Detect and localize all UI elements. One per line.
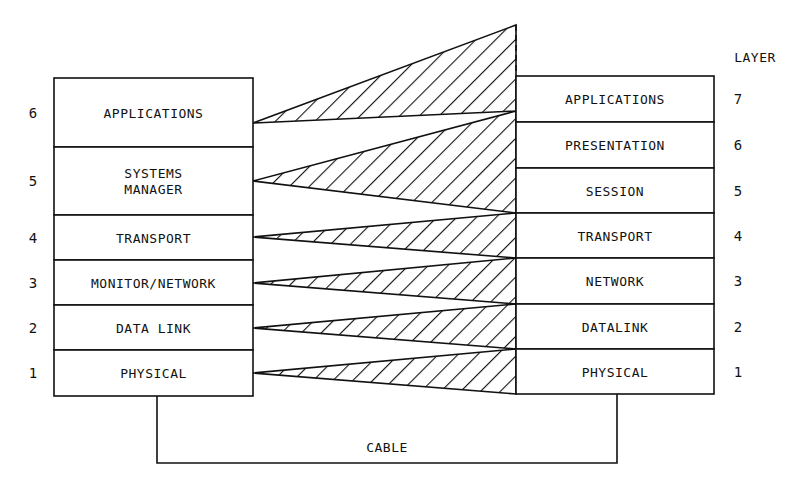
osi-layer-row: NETWORK3	[516, 258, 742, 304]
left-layer-label: DATA LINK	[116, 321, 191, 336]
left-layer-label: PHYSICAL	[120, 366, 187, 381]
osi-layer-label: PRESENTATION	[565, 138, 665, 153]
osi-layer-label: NETWORK	[586, 274, 644, 289]
mapping-wedge	[253, 258, 516, 304]
left-layer-number: 4	[29, 230, 37, 246]
left-layer-number: 1	[29, 365, 37, 381]
left-layer-label: MONITOR/NETWORK	[91, 276, 216, 291]
osi-layer-number: 6	[734, 137, 742, 153]
left-layer-label: SYSTEMS	[124, 166, 182, 181]
osi-layer-number: 1	[734, 364, 742, 380]
cable-label: CABLE	[366, 440, 408, 455]
osi-layer-number: 5	[734, 183, 742, 199]
left-layer-number: 5	[29, 173, 37, 189]
left-layer-number: 6	[29, 105, 37, 121]
left-layer-number: 2	[29, 320, 37, 336]
left-layer-box	[54, 147, 253, 215]
osi-layer-number: 2	[734, 319, 742, 335]
mapping-wedge	[253, 304, 516, 349]
left-layer-row: PHYSICAL1	[29, 350, 253, 396]
mapping-wedge	[253, 213, 516, 258]
left-layer-number: 3	[29, 275, 37, 291]
left-layer-row: TRANSPORT4	[29, 215, 253, 260]
osi-layer-number: 3	[734, 273, 742, 289]
layer-column-header: LAYER	[734, 50, 776, 65]
left-layer-row: SYSTEMSMANAGER5	[29, 147, 253, 215]
osi-layer-row: PRESENTATION6	[516, 122, 742, 168]
osi-layer-number: 4	[734, 228, 742, 244]
left-layer-label: TRANSPORT	[116, 231, 191, 246]
osi-layer-row: TRANSPORT4	[516, 213, 742, 258]
osi-layer-label: PHYSICAL	[582, 365, 649, 380]
left-layer-row: DATA LINK2	[29, 305, 253, 350]
protocol-layer-diagram: APPLICATIONS6SYSTEMSMANAGER5TRANSPORT4MO…	[0, 0, 799, 490]
osi-reference-stack: APPLICATIONS7PRESENTATION6SESSION5TRANSP…	[516, 76, 742, 394]
mapping-wedge	[253, 25, 516, 123]
left-layer-label: APPLICATIONS	[104, 106, 204, 121]
osi-layer-row: PHYSICAL1	[516, 349, 742, 394]
osi-layer-row: DATALINK2	[516, 304, 742, 349]
osi-layer-label: DATALINK	[582, 320, 649, 335]
left-layer-row: MONITOR/NETWORK3	[29, 260, 253, 305]
mapping-wedge	[253, 349, 516, 394]
layer-mapping-wedges	[253, 25, 516, 394]
left-protocol-stack: APPLICATIONS6SYSTEMSMANAGER5TRANSPORT4MO…	[29, 78, 253, 396]
left-layer-row: APPLICATIONS6	[29, 78, 253, 147]
osi-layer-row: SESSION5	[516, 168, 742, 213]
osi-layer-row: APPLICATIONS7	[516, 76, 742, 122]
osi-layer-label: TRANSPORT	[578, 229, 653, 244]
mapping-wedge	[253, 111, 516, 213]
left-layer-label: MANAGER	[124, 182, 182, 197]
osi-layer-label: APPLICATIONS	[565, 92, 665, 107]
osi-layer-label: SESSION	[586, 184, 644, 199]
osi-layer-number: 7	[734, 91, 742, 107]
